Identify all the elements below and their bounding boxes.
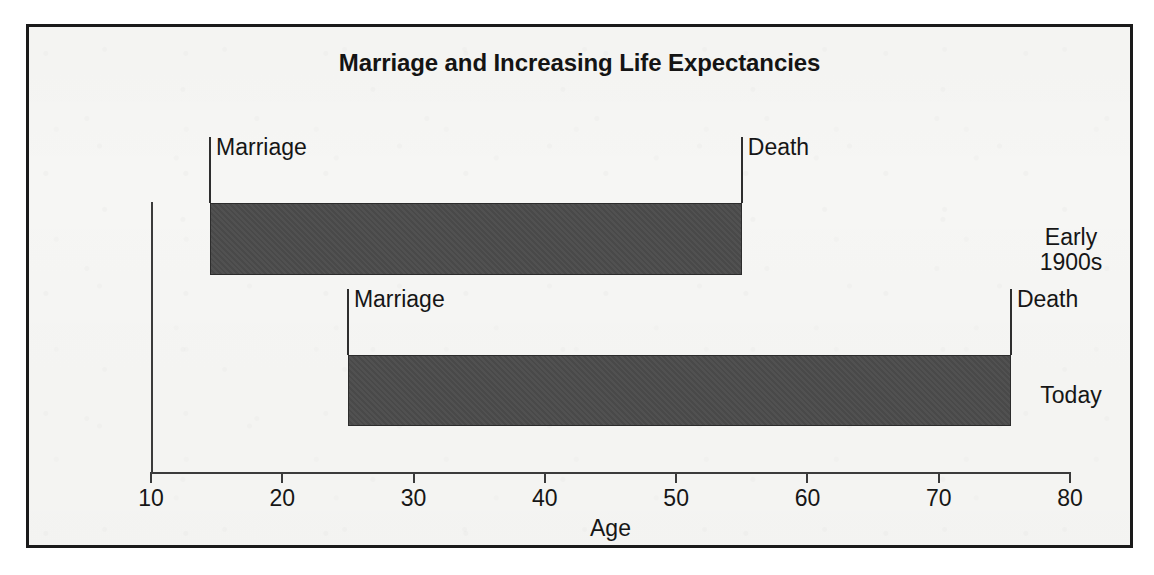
chart-figure-border: Marriage and Increasing Life Expectancie…	[26, 24, 1133, 548]
endpoint-label-death-2: Death	[1017, 286, 1078, 313]
x-axis-line	[150, 472, 1071, 474]
y-category-label-line-1: Today	[1012, 383, 1130, 408]
leader-line-end-2	[1010, 289, 1012, 355]
leader-line-start-2	[347, 289, 349, 355]
scanned-page: Marriage and Increasing Life Expectancie…	[0, 0, 1154, 575]
x-axis-title: Age	[150, 515, 1071, 542]
x-tick-70	[938, 472, 940, 483]
y-axis-line	[151, 202, 153, 474]
endpoint-label-death-1: Death	[748, 134, 809, 161]
x-tick-80	[1069, 472, 1071, 483]
x-tick-20	[281, 472, 283, 483]
leader-line-end-1	[741, 137, 743, 203]
x-tick-30	[413, 472, 415, 483]
x-tick-label-70: 70	[926, 485, 952, 512]
x-tick-label-80: 80	[1057, 485, 1083, 512]
endpoint-label-marriage-1: Marriage	[216, 134, 307, 161]
endpoint-label-marriage-2: Marriage	[354, 286, 445, 313]
x-tick-60	[806, 472, 808, 483]
y-category-label-today: Today	[1012, 383, 1130, 408]
leader-line-start-1	[209, 137, 211, 203]
plot-area: Early 1900s Today MarriageDeathMarriageD…	[29, 27, 1130, 545]
x-tick-50	[675, 472, 677, 483]
x-tick-10	[150, 472, 152, 483]
x-tick-label-20: 20	[269, 485, 295, 512]
bar-today	[348, 355, 1011, 426]
x-tick-label-40: 40	[532, 485, 558, 512]
y-category-label-line-1: Early	[1012, 225, 1130, 250]
bar-early-1900s	[210, 203, 742, 275]
x-tick-label-10: 10	[138, 485, 164, 512]
y-category-label-line-2: 1900s	[1012, 250, 1130, 275]
x-tick-label-60: 60	[795, 485, 821, 512]
x-tick-label-30: 30	[401, 485, 427, 512]
x-tick-40	[544, 472, 546, 483]
x-tick-label-50: 50	[663, 485, 689, 512]
y-category-label-early-1900s: Early 1900s	[1012, 225, 1130, 274]
